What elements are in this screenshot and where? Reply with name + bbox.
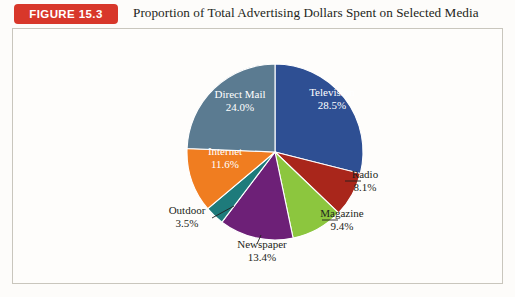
figure-root: FIGURE 15.3 Proportion of Total Advertis… [0, 0, 515, 297]
slice-label-radio: Radio [352, 168, 379, 180]
slice-label-television: Television [309, 86, 355, 98]
pie-chart-svg: Television28.5%Radio8.1%Magazine9.4%News… [12, 28, 503, 284]
slice-label-magazine: Magazine [320, 207, 363, 219]
slice-value-outdoor: 3.5% [176, 217, 199, 229]
figure-number-badge: FIGURE 15.3 [14, 4, 118, 24]
slice-value-radio: 8.1% [354, 181, 377, 193]
figure-title: Proportion of Total Advertising Dollars … [133, 5, 479, 21]
slice-value-television: 28.5% [318, 99, 346, 111]
slice-label-outdoor: Outdoor [169, 204, 206, 216]
pie-chart: Television28.5%Radio8.1%Magazine9.4%News… [12, 28, 503, 284]
slice-value-direct-mail: 24.0% [226, 101, 254, 113]
figure-header: FIGURE 15.3 Proportion of Total Advertis… [0, 0, 515, 30]
slice-label-direct-mail: Direct Mail [214, 88, 265, 100]
slice-value-newspaper: 13.4% [248, 251, 276, 263]
slice-label-newspaper: Newspaper [237, 238, 287, 250]
slice-label-internet: Internet [208, 145, 242, 157]
slice-value-internet: 11.6% [211, 158, 239, 170]
slice-value-magazine: 9.4% [331, 220, 354, 232]
